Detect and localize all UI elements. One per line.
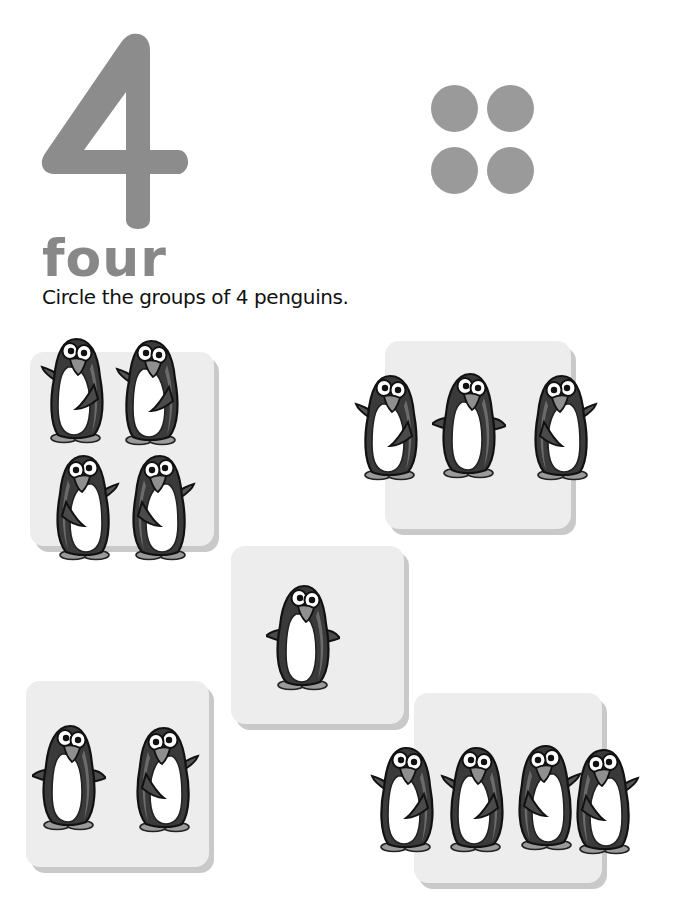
counting-dots [430, 84, 538, 196]
penguin-icon [354, 370, 428, 482]
penguin-icon [266, 580, 340, 692]
penguin-icon [32, 720, 106, 832]
dot [431, 85, 478, 132]
instruction-text: Circle the groups of 4 penguins. [42, 285, 349, 309]
dot [487, 85, 534, 132]
numeral-four-graphic: 4 [40, 30, 192, 232]
penguin-icon [524, 370, 598, 482]
penguin-icon [46, 450, 120, 562]
penguin-icon [432, 368, 506, 480]
dot [487, 147, 534, 194]
penguin-icon [440, 742, 514, 854]
penguin-icon [370, 742, 444, 854]
penguin-icon [122, 450, 196, 562]
dot [431, 147, 478, 194]
penguin-icon [126, 722, 200, 834]
penguin-icon [40, 333, 114, 445]
penguin-icon [566, 744, 640, 856]
number-word: four [42, 228, 167, 288]
penguin-icon [115, 335, 189, 447]
